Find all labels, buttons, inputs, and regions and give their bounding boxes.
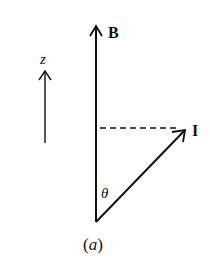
angle-theta-label: θ <box>101 185 109 201</box>
i-vector-label: I <box>192 122 198 139</box>
vector-diagram: z B I θ (a) <box>0 0 210 268</box>
i-vector-arrow <box>96 130 185 222</box>
z-axis-arrow <box>39 71 51 143</box>
z-axis-label: z <box>39 51 46 67</box>
b-vector-label: B <box>108 24 119 41</box>
figure-caption: (a) <box>83 235 103 254</box>
